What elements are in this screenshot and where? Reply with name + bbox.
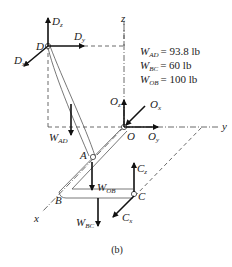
force-Dz: Dz [48, 15, 63, 46]
svg-text:Oz: Oz [110, 95, 121, 109]
figure-caption: (b) [111, 244, 123, 256]
z-axis: z [120, 12, 126, 127]
joint-C [131, 191, 136, 196]
member-BC [59, 189, 133, 198]
svg-text:Ox: Ox [150, 98, 162, 112]
svg-text:Dx: Dx [13, 54, 26, 68]
svg-text:Dz: Dz [51, 15, 63, 29]
joint-A [90, 154, 95, 159]
svg-text:WOB: WOB [97, 181, 116, 195]
force-Oz: Oz [110, 95, 124, 127]
point-C-label: C [138, 190, 146, 202]
point-B-label: B [55, 194, 62, 206]
force-WOB: WOB [92, 162, 116, 195]
point-A-label: A [79, 149, 87, 161]
force-Cz: Cz [134, 162, 147, 192]
svg-text:WBC= 60 lb: WBC= 60 lb [140, 59, 192, 73]
svg-text:WBC: WBC [76, 216, 94, 230]
svg-text:Cx: Cx [122, 211, 133, 225]
free-body-diagram: y z x Dz Dy Dx D [0, 0, 232, 267]
svg-text:Cz: Cz [137, 162, 147, 176]
force-WBC: WBC [76, 198, 98, 230]
construction-lines [48, 20, 124, 127]
c-to-y-line [135, 127, 202, 196]
svg-text:WOB= 100 lb: WOB= 100 lb [140, 73, 198, 87]
member-OB [59, 129, 127, 192]
svg-text:Dy: Dy [73, 30, 86, 44]
y-axis-label: y [221, 120, 227, 132]
x-axis-label: x [33, 212, 39, 224]
svg-text:WAD: WAD [49, 131, 68, 145]
weights-legend: WAD= 93.8 lb WBC= 60 lb WOB= 100 lb [140, 45, 201, 87]
point-O-label: O [127, 130, 135, 142]
force-Ox: Ox [126, 98, 162, 125]
svg-text:Oy: Oy [148, 130, 160, 144]
y-axis: y [124, 120, 227, 132]
force-Cx: Cx [113, 196, 134, 225]
z-axis-label: z [120, 12, 126, 24]
force-Dy: Dy [48, 30, 86, 46]
force-WAD: WAD [49, 104, 71, 145]
svg-text:WAD= 93.8 lb: WAD= 93.8 lb [140, 45, 201, 59]
x-axis: x [33, 127, 124, 224]
point-D-label: D [35, 40, 44, 52]
